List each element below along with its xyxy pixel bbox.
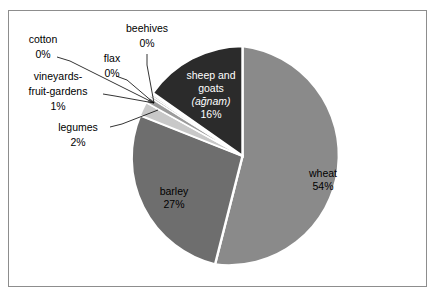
pie-chart-figure: wheat 54% barley 27% sheep and goats (ağ…: [0, 0, 438, 296]
pie-chart-canvas: wheat 54% barley 27% sheep and goats (ağ…: [0, 0, 438, 296]
slice-label-wheat-name: wheat: [308, 167, 337, 179]
slice-label-vineyards-line1: vineyards-: [34, 70, 83, 82]
slice-label-legumes-percent: 2%: [70, 136, 85, 148]
slice-label-flax-name: flax: [104, 52, 121, 64]
slice-label-barley-name: barley: [160, 185, 189, 197]
slice-label-sheep-and-goats-term: (ağnam): [191, 95, 230, 107]
slice-label-sheep-and-goats-percent: 16%: [200, 108, 221, 120]
slice-label-flax-percent: 0%: [104, 67, 119, 79]
leader-line-vineyards-fruit-gardens: [103, 94, 154, 103]
slice-label-vineyards-percent: 1%: [50, 100, 65, 112]
slice-label-cotton-name: cotton: [29, 33, 58, 45]
slice-label-barley-percent: 27%: [163, 198, 184, 210]
slice-label-legumes-name: legumes: [58, 121, 98, 133]
slice-label-cotton-percent: 0%: [35, 48, 50, 60]
slice-label-sheep-and-goats-line1: sheep and: [186, 69, 235, 81]
slice-label-sheep-and-goats-line2: goats: [198, 82, 224, 94]
slice-label-wheat-percent: 54%: [312, 180, 333, 192]
slice-label-beehives-name: beehives: [126, 22, 168, 34]
slice-label-beehives-percent: 0%: [139, 37, 154, 49]
slice-label-vineyards-line2: fruit-gardens: [29, 85, 88, 97]
